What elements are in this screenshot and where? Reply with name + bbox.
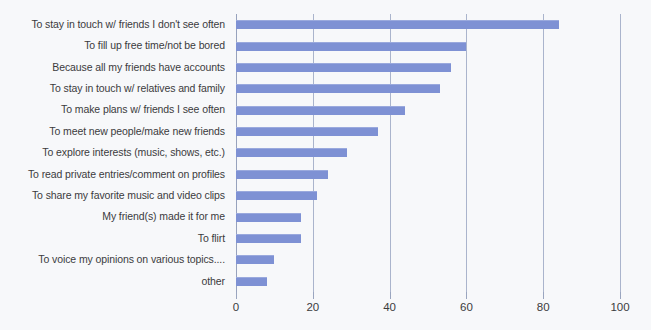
bar[interactable]: 53 [236, 84, 440, 93]
bar[interactable]: 84 [236, 20, 559, 29]
x-axis-tick-label: 100 [610, 301, 629, 313]
bar-value: 17 [236, 234, 237, 235]
x-axis-tick-mark [313, 292, 314, 299]
y-axis-tick-label: My friend(s) made it for me [0, 206, 231, 227]
y-axis-tick-label: To read private entries/comment on profi… [0, 164, 231, 185]
y-axis-tick-label: To share my favorite music and video cli… [0, 185, 231, 206]
bar-value: 24 [236, 170, 237, 171]
bar[interactable]: 24 [236, 170, 328, 179]
x-axis-tick-label: 20 [306, 301, 319, 313]
y-axis-tick-label: To explore interests (music, shows, etc.… [0, 142, 231, 163]
bar[interactable]: 10 [236, 255, 274, 264]
x-axis-tick-mark [543, 292, 544, 299]
bar[interactable]: 56 [236, 63, 451, 72]
bar[interactable]: 8 [236, 277, 267, 286]
bar-row[interactable]: 60 [236, 35, 620, 56]
bar[interactable]: 17 [236, 234, 301, 243]
bar-row[interactable]: 17 [236, 228, 620, 249]
bar-value: 17 [236, 213, 237, 214]
x-axis-tick-label: 40 [383, 301, 396, 313]
bar-row[interactable]: 17 [236, 206, 620, 227]
y-axis-tick-label: To stay in touch w/ relatives and family [0, 78, 231, 99]
x-axis-tick-label: 60 [460, 301, 473, 313]
bar-row[interactable]: 29 [236, 142, 620, 163]
bar-row[interactable]: 8 [236, 271, 620, 292]
y-axis-tick-label: other [0, 271, 231, 292]
bar-value: 10 [236, 255, 237, 256]
bar-row[interactable]: 10 [236, 249, 620, 270]
x-axis-tick-mark [620, 292, 621, 299]
bar-row[interactable]: 56 [236, 57, 620, 78]
y-axis-tick-label: Because all my friends have accounts [0, 57, 231, 78]
x-axis: 020406080100 [236, 292, 620, 322]
x-axis-tick-mark [466, 292, 467, 299]
bar-value: 44 [236, 106, 237, 107]
x-axis-tick-mark [236, 292, 237, 299]
bar-value: 53 [236, 84, 237, 85]
bar-chart: To stay in touch w/ friends I don't see … [0, 0, 651, 330]
bar-value: 29 [236, 148, 237, 149]
bar-value: 37 [236, 127, 237, 128]
y-axis-tick-label: To meet new people/make new friends [0, 121, 231, 142]
bar[interactable]: 44 [236, 106, 405, 115]
y-axis-tick-label: To make plans w/ friends I see often [0, 100, 231, 121]
y-axis-category-labels: To stay in touch w/ friends I don't see … [0, 14, 231, 292]
bar-value: 8 [236, 277, 237, 278]
bar-value: 60 [236, 42, 237, 43]
plot-area: 8460565344372924211717108 [236, 14, 620, 292]
bar-row[interactable]: 53 [236, 78, 620, 99]
bar[interactable]: 60 [236, 42, 466, 51]
bar[interactable]: 37 [236, 127, 378, 136]
bar-row[interactable]: 24 [236, 164, 620, 185]
y-axis-tick-label: To flirt [0, 228, 231, 249]
y-axis-tick-label: To fill up free time/not be bored [0, 35, 231, 56]
bar-series: 8460565344372924211717108 [236, 14, 620, 292]
gridline [620, 14, 621, 292]
x-axis-tick-label: 80 [537, 301, 550, 313]
bar[interactable]: 29 [236, 148, 347, 157]
bar-row[interactable]: 84 [236, 14, 620, 35]
bar-value: 56 [236, 63, 237, 64]
bar-value: 84 [236, 20, 237, 21]
y-axis-tick-label: To stay in touch w/ friends I don't see … [0, 14, 231, 35]
x-axis-tick-mark [390, 292, 391, 299]
bar-value: 21 [236, 191, 237, 192]
y-axis-tick-label: To voice my opinions on various topics..… [0, 249, 231, 270]
bar-row[interactable]: 21 [236, 185, 620, 206]
bar[interactable]: 17 [236, 213, 301, 222]
bar[interactable]: 21 [236, 191, 317, 200]
bar-row[interactable]: 44 [236, 100, 620, 121]
bar-row[interactable]: 37 [236, 121, 620, 142]
x-axis-tick-label: 0 [233, 301, 239, 313]
